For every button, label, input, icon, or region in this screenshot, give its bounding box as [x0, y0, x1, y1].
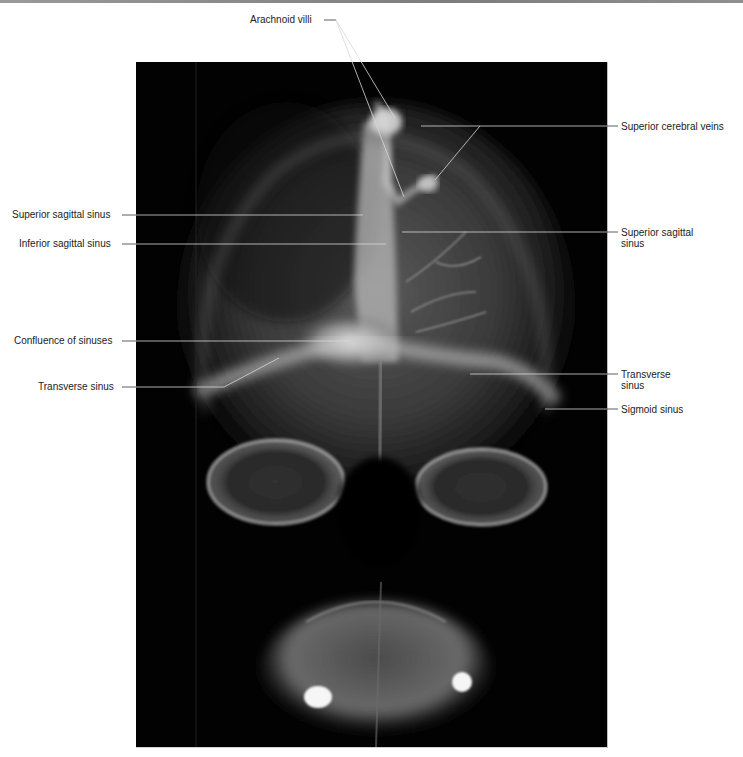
label-inferior-sagittal-sinus: Inferior sagittal sinus [19, 238, 111, 249]
top-border-bar [0, 0, 743, 3]
label-sigmoid-sinus: Sigmoid sinus [621, 404, 683, 415]
label-line-1: Superior sagittal [621, 227, 693, 238]
label-transverse-sinus-left: Transverse sinus [38, 381, 114, 392]
label-confluence-of-sinuses: Confluence of sinuses [14, 335, 112, 346]
label-line-1: Transverse [621, 369, 671, 380]
skull-radiograph-image [136, 62, 608, 748]
label-superior-cerebral-veins: Superior cerebral veins [621, 121, 724, 132]
label-transverse-sinus-right: Transverse sinus [621, 369, 671, 391]
label-line-2: sinus [621, 380, 671, 391]
radiograph-drawing [136, 62, 607, 747]
label-superior-sagittal-sinus-right: Superior sagittal sinus [621, 227, 693, 249]
label-superior-sagittal-sinus-left: Superior sagittal sinus [12, 209, 110, 220]
label-arachnoid-villi: Arachnoid villi [250, 14, 312, 25]
label-line-2: sinus [621, 238, 693, 249]
